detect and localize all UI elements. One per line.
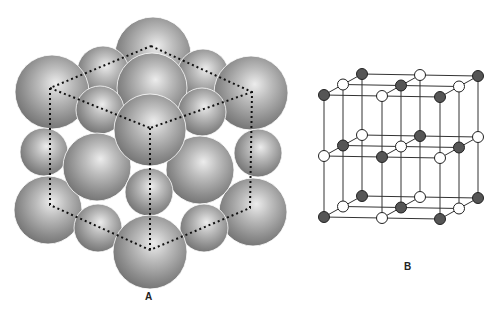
dark-ion — [319, 90, 330, 101]
dark-ion — [435, 214, 446, 225]
sphere — [20, 128, 68, 176]
dark-ion — [338, 140, 349, 151]
light-ion — [377, 91, 388, 102]
dark-ion — [357, 69, 368, 80]
light-ion — [454, 203, 465, 214]
bond — [343, 85, 401, 86]
light-ion — [415, 192, 426, 203]
bond — [382, 96, 440, 97]
dark-ion — [473, 193, 484, 204]
bond — [382, 157, 440, 158]
bond — [382, 218, 440, 219]
sphere — [113, 215, 187, 289]
dark-ion — [435, 92, 446, 103]
bond — [420, 136, 478, 137]
dark-ion — [377, 152, 388, 163]
bond — [401, 208, 459, 209]
panel-a-label: A — [145, 291, 152, 302]
light-ion — [338, 79, 349, 90]
light-ion — [435, 153, 446, 164]
sphere — [180, 204, 228, 252]
light-ion — [319, 151, 330, 162]
dark-ion — [415, 131, 426, 142]
bond — [324, 217, 382, 218]
bond — [401, 86, 459, 87]
light-ion — [473, 132, 484, 143]
dark-ion — [357, 191, 368, 202]
bond — [324, 95, 382, 96]
dark-ion — [396, 80, 407, 91]
light-ion — [454, 81, 465, 92]
dark-ion — [396, 202, 407, 213]
bond — [343, 207, 401, 208]
dark-ion — [473, 71, 484, 82]
dark-ion — [454, 142, 465, 153]
bond — [420, 75, 478, 76]
dark-ion — [319, 212, 330, 223]
light-ion — [357, 130, 368, 141]
bond — [343, 146, 401, 147]
light-ion — [377, 213, 388, 224]
bond — [362, 135, 420, 136]
figure-canvas — [0, 0, 502, 315]
bond — [362, 196, 420, 197]
sphere — [219, 178, 287, 246]
bond — [324, 156, 382, 157]
bond — [420, 197, 478, 198]
panel-b-label: B — [404, 261, 411, 272]
bond — [401, 147, 459, 148]
light-ion — [338, 201, 349, 212]
sphere — [234, 129, 282, 177]
light-ion — [415, 70, 426, 81]
bond — [362, 74, 420, 75]
light-ion — [396, 141, 407, 152]
